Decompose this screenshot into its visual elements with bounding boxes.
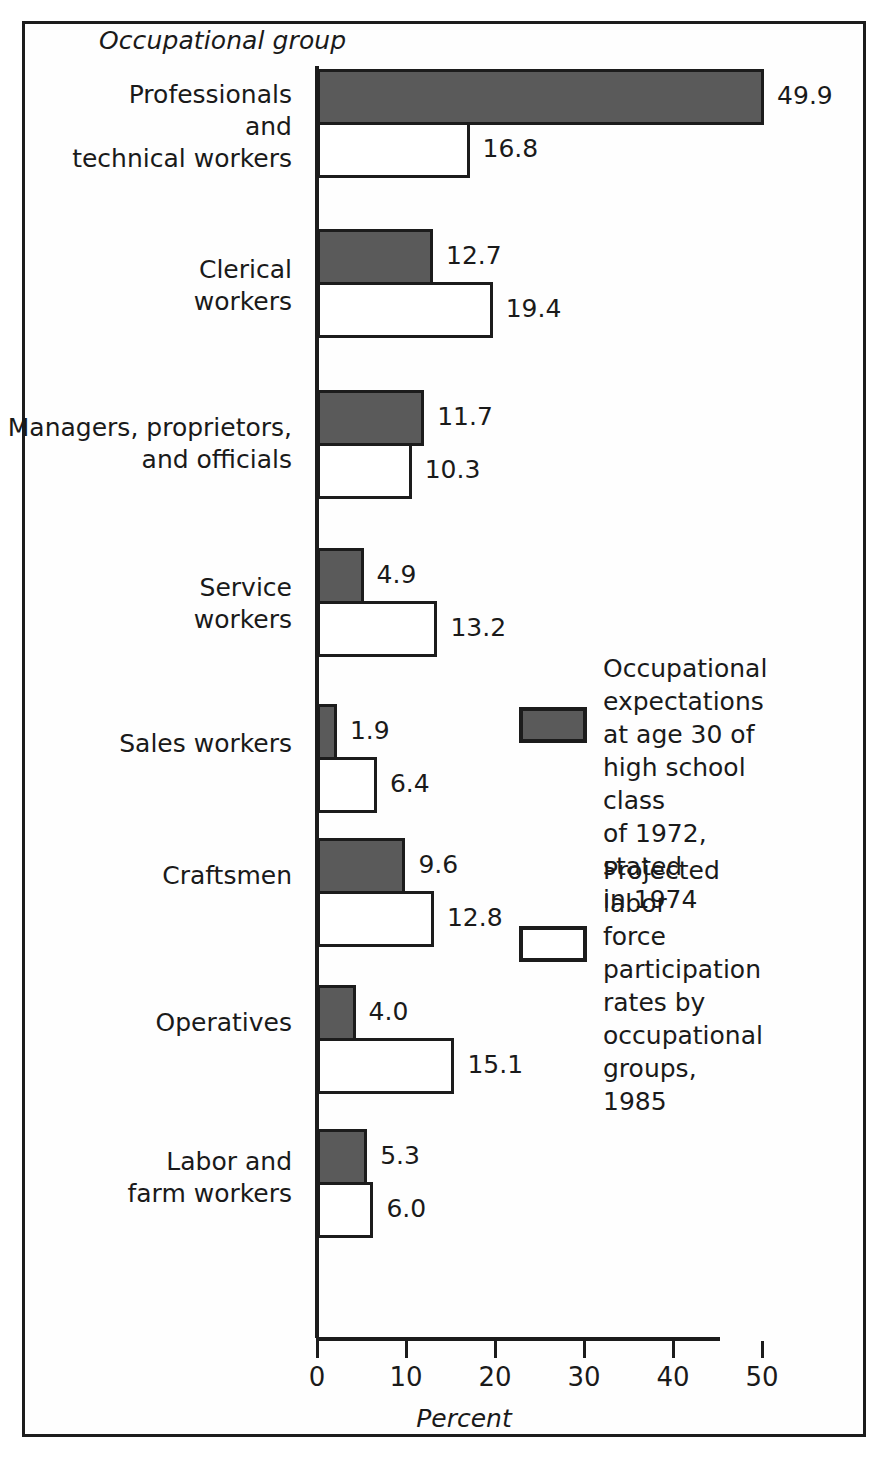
bar-value-series-1-group-8: 5.3 <box>380 1141 420 1170</box>
bar-value-series-2-group-4: 13.2 <box>450 613 506 642</box>
x-tick-50 <box>761 1341 764 1358</box>
bar-value-series-2-group-5: 6.4 <box>390 769 430 798</box>
x-tick-0 <box>316 1341 319 1358</box>
category-label-sales: Sales workers <box>119 728 292 760</box>
bar-series-1-group-4 <box>317 548 364 604</box>
bar-value-series-1-group-5: 1.9 <box>350 716 390 745</box>
bar-series-1-group-5 <box>317 704 337 760</box>
bar-series-1-group-3 <box>317 390 424 446</box>
bar-series-2-group-8 <box>317 1182 373 1238</box>
bar-series-2-group-2 <box>317 282 493 338</box>
x-tick-label-10: 10 <box>376 1362 436 1392</box>
bar-series-1-group-8 <box>317 1129 367 1185</box>
bar-series-2-group-3 <box>317 443 412 499</box>
category-label-craftsmen: Craftsmen <box>162 860 292 892</box>
x-tick-label-30: 30 <box>554 1362 614 1392</box>
x-tick-30 <box>583 1341 586 1358</box>
category-label-clerical: Clerical workers <box>194 254 292 318</box>
x-tick-10 <box>405 1341 408 1358</box>
legend-swatch-light-icon <box>519 926 587 962</box>
x-axis-title: Percent <box>0 1404 890 1433</box>
category-label-managers: Managers, proprietors, and officials <box>8 412 292 476</box>
y-axis-title: Occupational group <box>99 26 346 55</box>
category-label-labor-farm: Labor and farm workers <box>127 1146 292 1210</box>
x-tick-label-20: 20 <box>465 1362 525 1392</box>
x-tick-label-0: 0 <box>287 1362 347 1392</box>
bar-value-series-1-group-7: 4.0 <box>369 997 409 1026</box>
bar-value-series-2-group-6: 12.8 <box>447 903 503 932</box>
bar-series-2-group-7 <box>317 1038 454 1094</box>
bar-series-2-group-6 <box>317 891 434 947</box>
chart-plot-area: Occupational group Professionals and tec… <box>0 0 890 1464</box>
bar-series-2-group-1 <box>317 122 470 178</box>
category-label-operatives: Operatives <box>156 1007 292 1039</box>
category-label-service: Service workers <box>194 572 292 636</box>
bar-value-series-2-group-1: 16.8 <box>483 134 539 163</box>
x-tick-label-40: 40 <box>643 1362 703 1392</box>
bar-value-series-1-group-2: 12.7 <box>446 241 502 270</box>
bar-series-1-group-1 <box>317 69 764 125</box>
bar-value-series-2-group-8: 6.0 <box>386 1194 426 1223</box>
legend-label-projected: Projected labor force participation rate… <box>603 854 763 1118</box>
bar-series-1-group-2 <box>317 229 433 285</box>
x-tick-40 <box>672 1341 675 1358</box>
x-axis-line <box>316 1337 720 1341</box>
x-tick-20 <box>494 1341 497 1358</box>
bar-value-series-1-group-6: 9.6 <box>418 850 458 879</box>
x-tick-label-50: 50 <box>732 1362 792 1392</box>
bar-value-series-2-group-7: 15.1 <box>467 1050 523 1079</box>
bar-value-series-2-group-3: 10.3 <box>425 455 481 484</box>
bar-series-1-group-7 <box>317 985 356 1041</box>
bar-series-2-group-5 <box>317 757 377 813</box>
bar-value-series-2-group-2: 19.4 <box>506 294 562 323</box>
bar-series-2-group-4 <box>317 601 437 657</box>
bar-value-series-1-group-3: 11.7 <box>437 402 493 431</box>
bar-series-1-group-6 <box>317 838 405 894</box>
bar-value-series-1-group-1: 49.9 <box>777 81 833 110</box>
category-label-professionals: Professionals and technical workers <box>72 79 292 175</box>
legend-swatch-dark-icon <box>519 707 587 743</box>
bar-value-series-1-group-4: 4.9 <box>377 560 417 589</box>
